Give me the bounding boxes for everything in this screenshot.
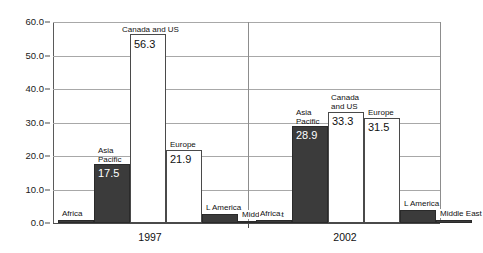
bar-label-1997-canada-and-us: Canada and US <box>121 25 180 34</box>
bar-1997-l-america <box>202 214 238 223</box>
bar-2002-middle-east <box>436 220 472 223</box>
y-axis-label-60: 60.0 <box>26 17 45 27</box>
y-axis-label-10: 10.0 <box>26 185 45 195</box>
gridline-0 <box>53 223 440 224</box>
y-axis-label-20: 20.0 <box>26 151 45 161</box>
x-axis-label-1997: 1997 <box>138 231 161 243</box>
plot-area: Africa Asia Pacific 17.5 Canada and US 5… <box>53 22 440 223</box>
y-tick-mark-60 <box>45 22 50 23</box>
bar-value-1997-europe: 21.9 <box>170 153 191 165</box>
bar-value-1997-canada-and-us: 56.3 <box>134 38 155 50</box>
gridline-60 <box>53 22 440 23</box>
y-tick-mark-10 <box>45 189 50 190</box>
gridline-50 <box>53 56 440 57</box>
bar-label-2002-europe: Europe <box>367 108 395 117</box>
y-axis-label-0: 0.0 <box>31 218 44 228</box>
bar-label-2002-canada-and-us: Canada and US <box>330 93 360 111</box>
bar-2002-canada-and-us <box>328 112 364 224</box>
y-tick-mark-0 <box>45 223 50 224</box>
bar-value-2002-asia-pacific: 28.9 <box>296 129 317 141</box>
bar-label-1997-l-america: L America <box>205 203 242 212</box>
bar-label-1997-africa: Africa <box>61 209 83 218</box>
bar-label-2002-africa: Africa <box>259 209 281 218</box>
bar-1997-canada-and-us <box>130 34 166 223</box>
bar-1997-africa <box>58 220 94 223</box>
y-tick-mark-20 <box>45 156 50 157</box>
group-separator-line <box>248 22 249 223</box>
bar-label-2002-middle-east: Middle East <box>439 209 483 218</box>
bar-value-1997-asia-pacific: 17.5 <box>98 167 119 179</box>
bar-2002-l-america <box>400 210 436 223</box>
bar-label-1997-asia-pacific: Asia Pacific <box>97 146 123 164</box>
bar-label-2002-l-america: L America <box>403 199 440 208</box>
bar-2002-europe <box>364 118 400 224</box>
bar-label-1997-europe: Europe <box>169 140 197 149</box>
y-tick-mark-50 <box>45 55 50 56</box>
bar-value-2002-canada-and-us: 33.3 <box>332 115 353 127</box>
y-axis: 0.0 10.0 20.0 30.0 40.0 50.0 60.0 <box>0 22 50 223</box>
gridline-40 <box>53 89 440 90</box>
x-axis-label-2002: 2002 <box>333 231 356 243</box>
plot-right-edge <box>440 22 441 223</box>
x-tick-mark-group-divider <box>248 223 249 228</box>
y-tick-mark-40 <box>45 89 50 90</box>
bar-label-2002-asia-pacific: Asia Pacific <box>295 108 321 126</box>
bar-value-2002-europe: 31.5 <box>368 121 389 133</box>
y-axis-label-40: 40.0 <box>26 84 45 94</box>
y-axis-label-50: 50.0 <box>26 51 45 61</box>
x-axis: 1997 2002 <box>0 231 461 247</box>
y-tick-mark-30 <box>45 122 50 123</box>
bar-2002-africa <box>256 220 292 224</box>
y-axis-label-30: 30.0 <box>26 118 45 128</box>
